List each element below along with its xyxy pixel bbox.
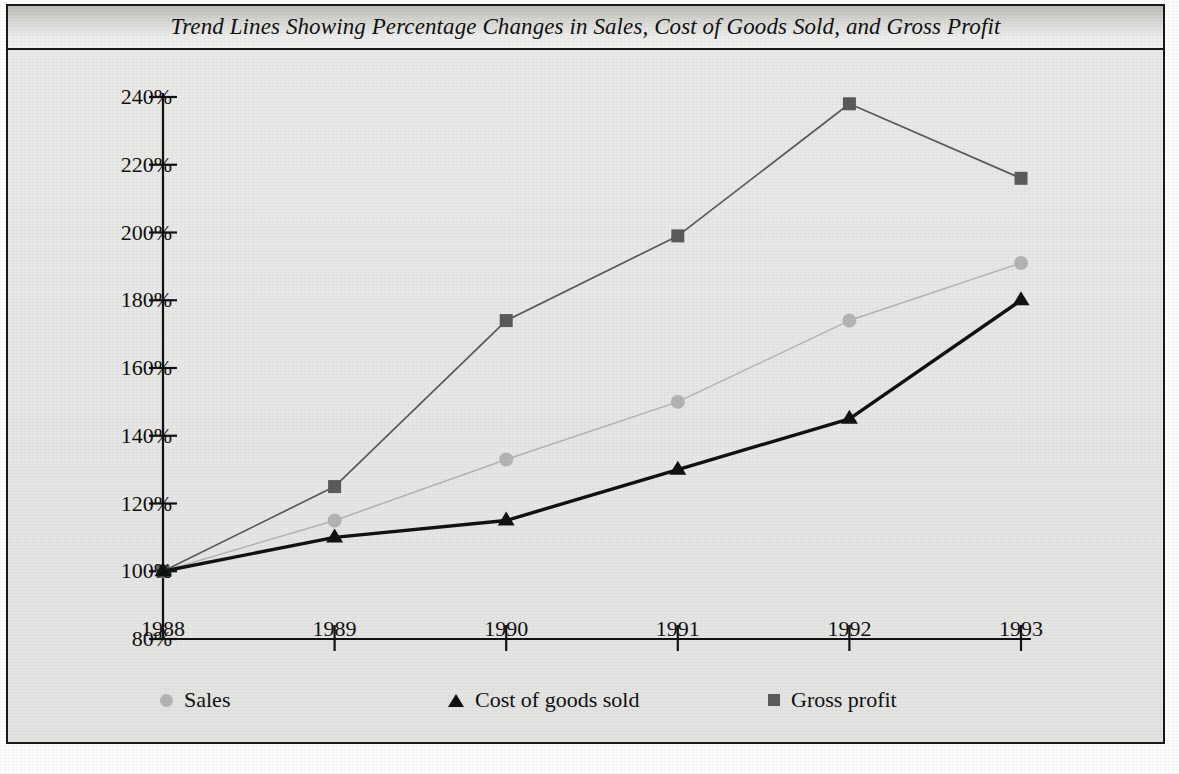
figure-page: Trend Lines Showing Percentage Changes i… bbox=[0, 0, 1179, 774]
data-point-marker bbox=[671, 395, 685, 409]
square-marker-icon bbox=[768, 694, 780, 706]
legend-item-label: Cost of goods sold bbox=[475, 689, 639, 711]
figure-frame: Trend Lines Showing Percentage Changes i… bbox=[6, 4, 1165, 744]
data-point-marker bbox=[841, 410, 858, 424]
y-axis-tick-label: 200% bbox=[121, 220, 172, 246]
y-axis-tick-label: 240% bbox=[121, 84, 172, 110]
y-axis-tick-label: 180% bbox=[121, 287, 172, 313]
x-axis-tick-label: 1992 bbox=[827, 616, 871, 642]
y-axis-tick-label: 120% bbox=[121, 491, 172, 517]
x-axis-tick-label: 1988 bbox=[141, 616, 185, 642]
triangle-marker-icon bbox=[448, 694, 464, 707]
y-axis-tick-label: 140% bbox=[121, 423, 172, 449]
chart-legend: SalesCost of goods soldGross profit bbox=[8, 680, 1163, 720]
data-point-marker bbox=[843, 97, 856, 110]
y-axis-tick-label: 160% bbox=[121, 355, 172, 381]
chart-plot-area: 240%220%200%180%160%140%120%100%80% 1988… bbox=[8, 50, 1163, 742]
legend-item: Cost of goods sold bbox=[448, 689, 639, 711]
legend-item-label: Sales bbox=[184, 689, 230, 711]
y-axis-tick-label: 220% bbox=[121, 152, 172, 178]
legend-item: Sales bbox=[160, 689, 230, 711]
page-title: Trend Lines Showing Percentage Changes i… bbox=[171, 14, 1001, 40]
y-axis-tick-label: 100% bbox=[121, 558, 172, 584]
x-axis-tick-label: 1989 bbox=[313, 616, 357, 642]
legend-item: Gross profit bbox=[768, 689, 897, 711]
data-point-marker bbox=[842, 314, 856, 328]
x-axis-tick-label: 1990 bbox=[484, 616, 528, 642]
data-point-marker bbox=[328, 513, 342, 527]
data-point-marker bbox=[671, 229, 684, 242]
legend-item-label: Gross profit bbox=[791, 689, 897, 711]
data-point-marker bbox=[500, 314, 513, 327]
data-point-marker bbox=[1013, 291, 1030, 305]
data-point-marker bbox=[328, 480, 341, 493]
data-point-marker bbox=[1015, 172, 1028, 185]
data-point-marker bbox=[1014, 256, 1028, 270]
x-axis-tick-label: 1993 bbox=[999, 616, 1043, 642]
x-axis-tick-label: 1991 bbox=[656, 616, 700, 642]
chart-series bbox=[155, 97, 1030, 578]
figure-title-bar: Trend Lines Showing Percentage Changes i… bbox=[8, 6, 1163, 50]
circle-marker-icon bbox=[160, 694, 173, 707]
chart-axes bbox=[149, 93, 1031, 651]
data-point-marker bbox=[499, 452, 513, 466]
